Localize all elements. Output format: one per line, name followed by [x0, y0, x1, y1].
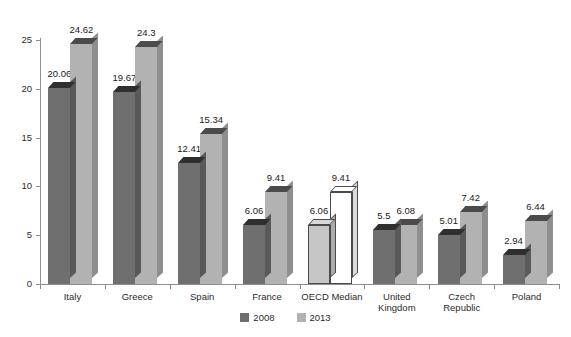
legend-item: 2013	[297, 313, 331, 323]
y-axis-tick-label: 15	[8, 133, 32, 143]
chart-legend: 20082013	[0, 313, 571, 323]
x-axis-tick	[300, 284, 301, 289]
bar	[113, 92, 135, 284]
legend-label: 2008	[253, 313, 274, 323]
bar-side-face	[482, 200, 488, 278]
bar	[503, 255, 525, 284]
category-label-line: Greece	[105, 291, 170, 302]
bar-front-face	[308, 225, 330, 284]
category-label-line: Poland	[494, 291, 559, 302]
y-axis-tick-label: 10	[8, 181, 32, 191]
bar-side-face	[352, 181, 358, 278]
bar	[373, 230, 395, 284]
bar	[243, 225, 265, 284]
category-label: Italy	[40, 291, 105, 302]
bar-front-face	[48, 88, 70, 284]
bar-side-face	[222, 123, 228, 278]
legend-item: 2008	[240, 313, 274, 323]
category-label: CzechRepublic	[429, 291, 494, 313]
x-axis-tick	[105, 284, 106, 289]
bar-value-label: 7.42	[450, 193, 492, 203]
bar-side-face	[92, 32, 98, 278]
bar-front-face	[243, 225, 265, 284]
x-axis-tick	[429, 284, 430, 289]
x-axis-tick	[170, 284, 171, 289]
x-axis-tick	[364, 284, 365, 289]
category-label: Spain	[170, 291, 235, 302]
x-axis-tick	[559, 284, 560, 289]
category-label-line: France	[235, 291, 300, 302]
category-label-line: Spain	[170, 291, 235, 302]
bar	[438, 235, 460, 284]
category-label: France	[235, 291, 300, 302]
bar-front-face	[503, 255, 525, 284]
category-label: Greece	[105, 291, 170, 302]
bar-side-face	[157, 35, 163, 278]
category-label-line: Czech	[429, 291, 494, 302]
bar-front-face	[113, 92, 135, 284]
category-label: Poland	[494, 291, 559, 302]
y-axis-tick-label: 20	[8, 84, 32, 94]
legend-label: 2013	[310, 313, 331, 323]
bar-side-face	[287, 181, 293, 278]
bar-value-label: 6.08	[385, 206, 427, 216]
category-label: OECD Median	[300, 291, 365, 302]
legend-swatch	[240, 313, 249, 322]
category-label-line: United	[364, 291, 429, 302]
x-axis-tick	[494, 284, 495, 289]
x-axis-tick	[40, 284, 41, 289]
y-axis-tick	[36, 186, 41, 187]
y-axis-tick	[36, 138, 41, 139]
bar-side-face	[200, 151, 206, 278]
y-axis-tick	[36, 40, 41, 41]
category-label-line: Kingdom	[364, 302, 429, 313]
y-axis-tick-label: 25	[8, 35, 32, 45]
bar-side-face	[135, 81, 141, 278]
y-axis-tick-label: 0	[8, 279, 32, 289]
bar-side-face	[70, 77, 76, 278]
y-axis-tick	[36, 89, 41, 90]
bar-chart: 0510152025 20.0624.6219.6724.312.4115.34…	[0, 0, 571, 337]
bar-front-face	[438, 235, 460, 284]
bar	[308, 225, 330, 284]
bar-front-face	[373, 230, 395, 284]
y-axis-tick	[36, 235, 41, 236]
category-label-line: Republic	[429, 302, 494, 313]
category-label-line: Italy	[40, 291, 105, 302]
bar-front-face	[178, 163, 200, 284]
y-axis-tick-label: 5	[8, 230, 32, 240]
category-label: UnitedKingdom	[364, 291, 429, 313]
category-label-line: OECD Median	[300, 291, 365, 302]
bar	[48, 88, 70, 284]
x-axis-tick	[235, 284, 236, 289]
legend-swatch	[297, 313, 306, 322]
bar	[178, 163, 200, 284]
